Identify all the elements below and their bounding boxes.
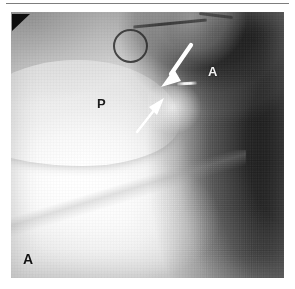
figure-root: A P A (0, 0, 295, 289)
radiopaque-marker-streak (177, 81, 197, 85)
label-pulmonary-artery: P (97, 97, 106, 110)
angiogram-image: A P A (11, 12, 284, 278)
corner-triangle-marker (12, 14, 30, 31)
catheter-loop-icon (113, 29, 148, 63)
shunt-bright-region (148, 86, 208, 139)
label-aorta: A (208, 65, 217, 78)
panel-label: A (23, 252, 33, 266)
top-rule-divider (6, 3, 289, 4)
catheter-tube (133, 18, 207, 28)
large-arrow-icon (161, 45, 191, 87)
tissue-interface-line (11, 150, 246, 240)
